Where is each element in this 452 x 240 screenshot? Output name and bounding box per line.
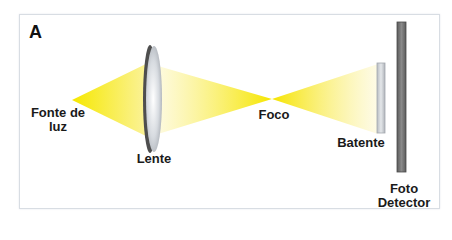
label-photodetector-line2: Detector (374, 196, 434, 210)
label-focus: Foco (254, 108, 294, 122)
label-light-source: Fonte de luz (30, 106, 86, 134)
label-photodetector: Foto Detector (374, 182, 434, 210)
label-lens: Lente (132, 152, 176, 166)
label-stop: Batente (333, 136, 389, 150)
photodetector-icon (397, 22, 406, 172)
panel-letter: A (29, 22, 42, 43)
stop-icon (377, 63, 385, 133)
lens-icon (143, 45, 162, 153)
label-photodetector-line1: Foto (374, 182, 434, 196)
beam-focus-to-stop (272, 64, 378, 134)
label-light-source-line2: luz (30, 120, 86, 134)
beam-lens-to-focus (158, 66, 272, 134)
label-light-source-line1: Fonte de (30, 106, 86, 120)
